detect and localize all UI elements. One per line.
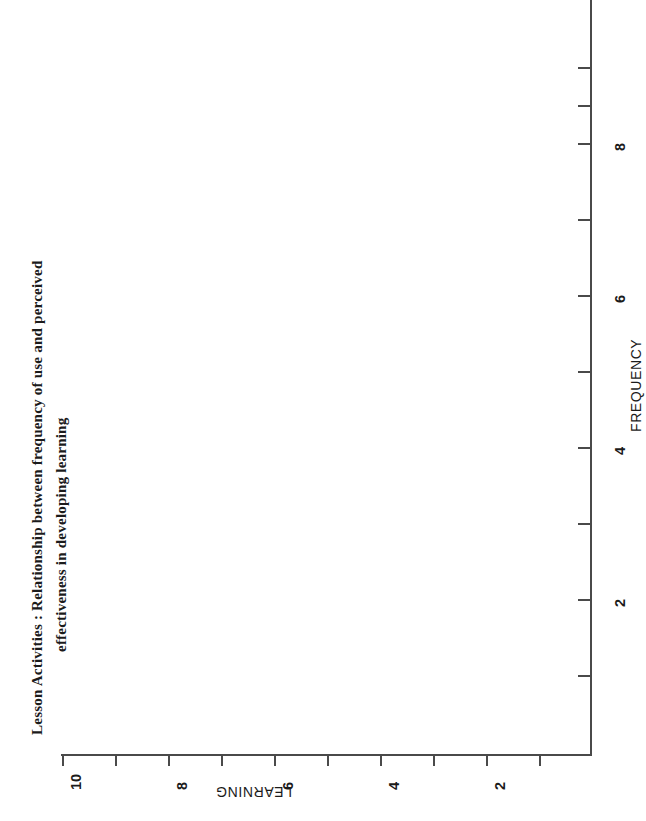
chart-page: Lesson Activities : Relationship between…	[0, 0, 646, 821]
frequency-tick	[578, 599, 590, 601]
learning-tick	[539, 755, 541, 766]
frequency-axis-title: FREQUENCY	[628, 339, 644, 432]
chart-title-line-1: Lesson Activities : Relationship between…	[28, 260, 46, 735]
plot-area	[62, 0, 590, 754]
chart-title: Lesson Activities : Relationship between…	[0, 0, 60, 760]
learning-axis-title: LEARNING	[216, 784, 292, 800]
frequency-tick	[578, 67, 590, 69]
frequency-tick	[578, 371, 590, 373]
frequency-tick	[578, 523, 590, 525]
learning-tick-label: 4	[386, 782, 402, 790]
frequency-tick-label: 6	[612, 295, 628, 303]
learning-tick	[486, 755, 488, 766]
learning-tick-label: 2	[492, 782, 508, 790]
learning-tick	[62, 755, 64, 766]
frequency-tick-label: 8	[612, 143, 628, 151]
learning-tick	[433, 755, 435, 766]
learning-tick	[168, 755, 170, 766]
frequency-tick	[578, 675, 590, 677]
frequency-tick	[578, 219, 590, 221]
learning-tick	[380, 755, 382, 766]
frequency-tick	[578, 105, 590, 107]
frequency-tick	[578, 295, 590, 297]
frequency-tick	[578, 447, 590, 449]
frequency-tick	[578, 143, 590, 145]
learning-tick	[115, 755, 117, 766]
learning-tick	[221, 755, 223, 766]
learning-tick	[327, 755, 329, 766]
learning-tick-label: 10	[68, 774, 84, 790]
learning-tick	[274, 755, 276, 766]
frequency-tick-label: 4	[612, 447, 628, 455]
frequency-axis-line	[590, 0, 592, 756]
frequency-tick-label: 2	[612, 599, 628, 607]
chart-title-line-2: effectiveness in developing learning	[52, 418, 70, 652]
learning-tick-label: 8	[174, 782, 190, 790]
